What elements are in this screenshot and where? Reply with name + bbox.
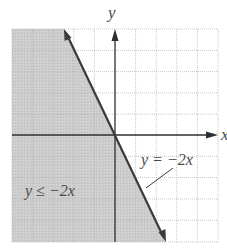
inequality-graph: y x y = −2x y ≤ −2x: [0, 0, 227, 251]
inequality-label: y ≤ −2x: [23, 182, 75, 200]
y-axis-label: y: [106, 3, 116, 22]
x-axis-label: x: [220, 125, 227, 144]
boundary-equation-label: y = −2x: [139, 151, 193, 169]
